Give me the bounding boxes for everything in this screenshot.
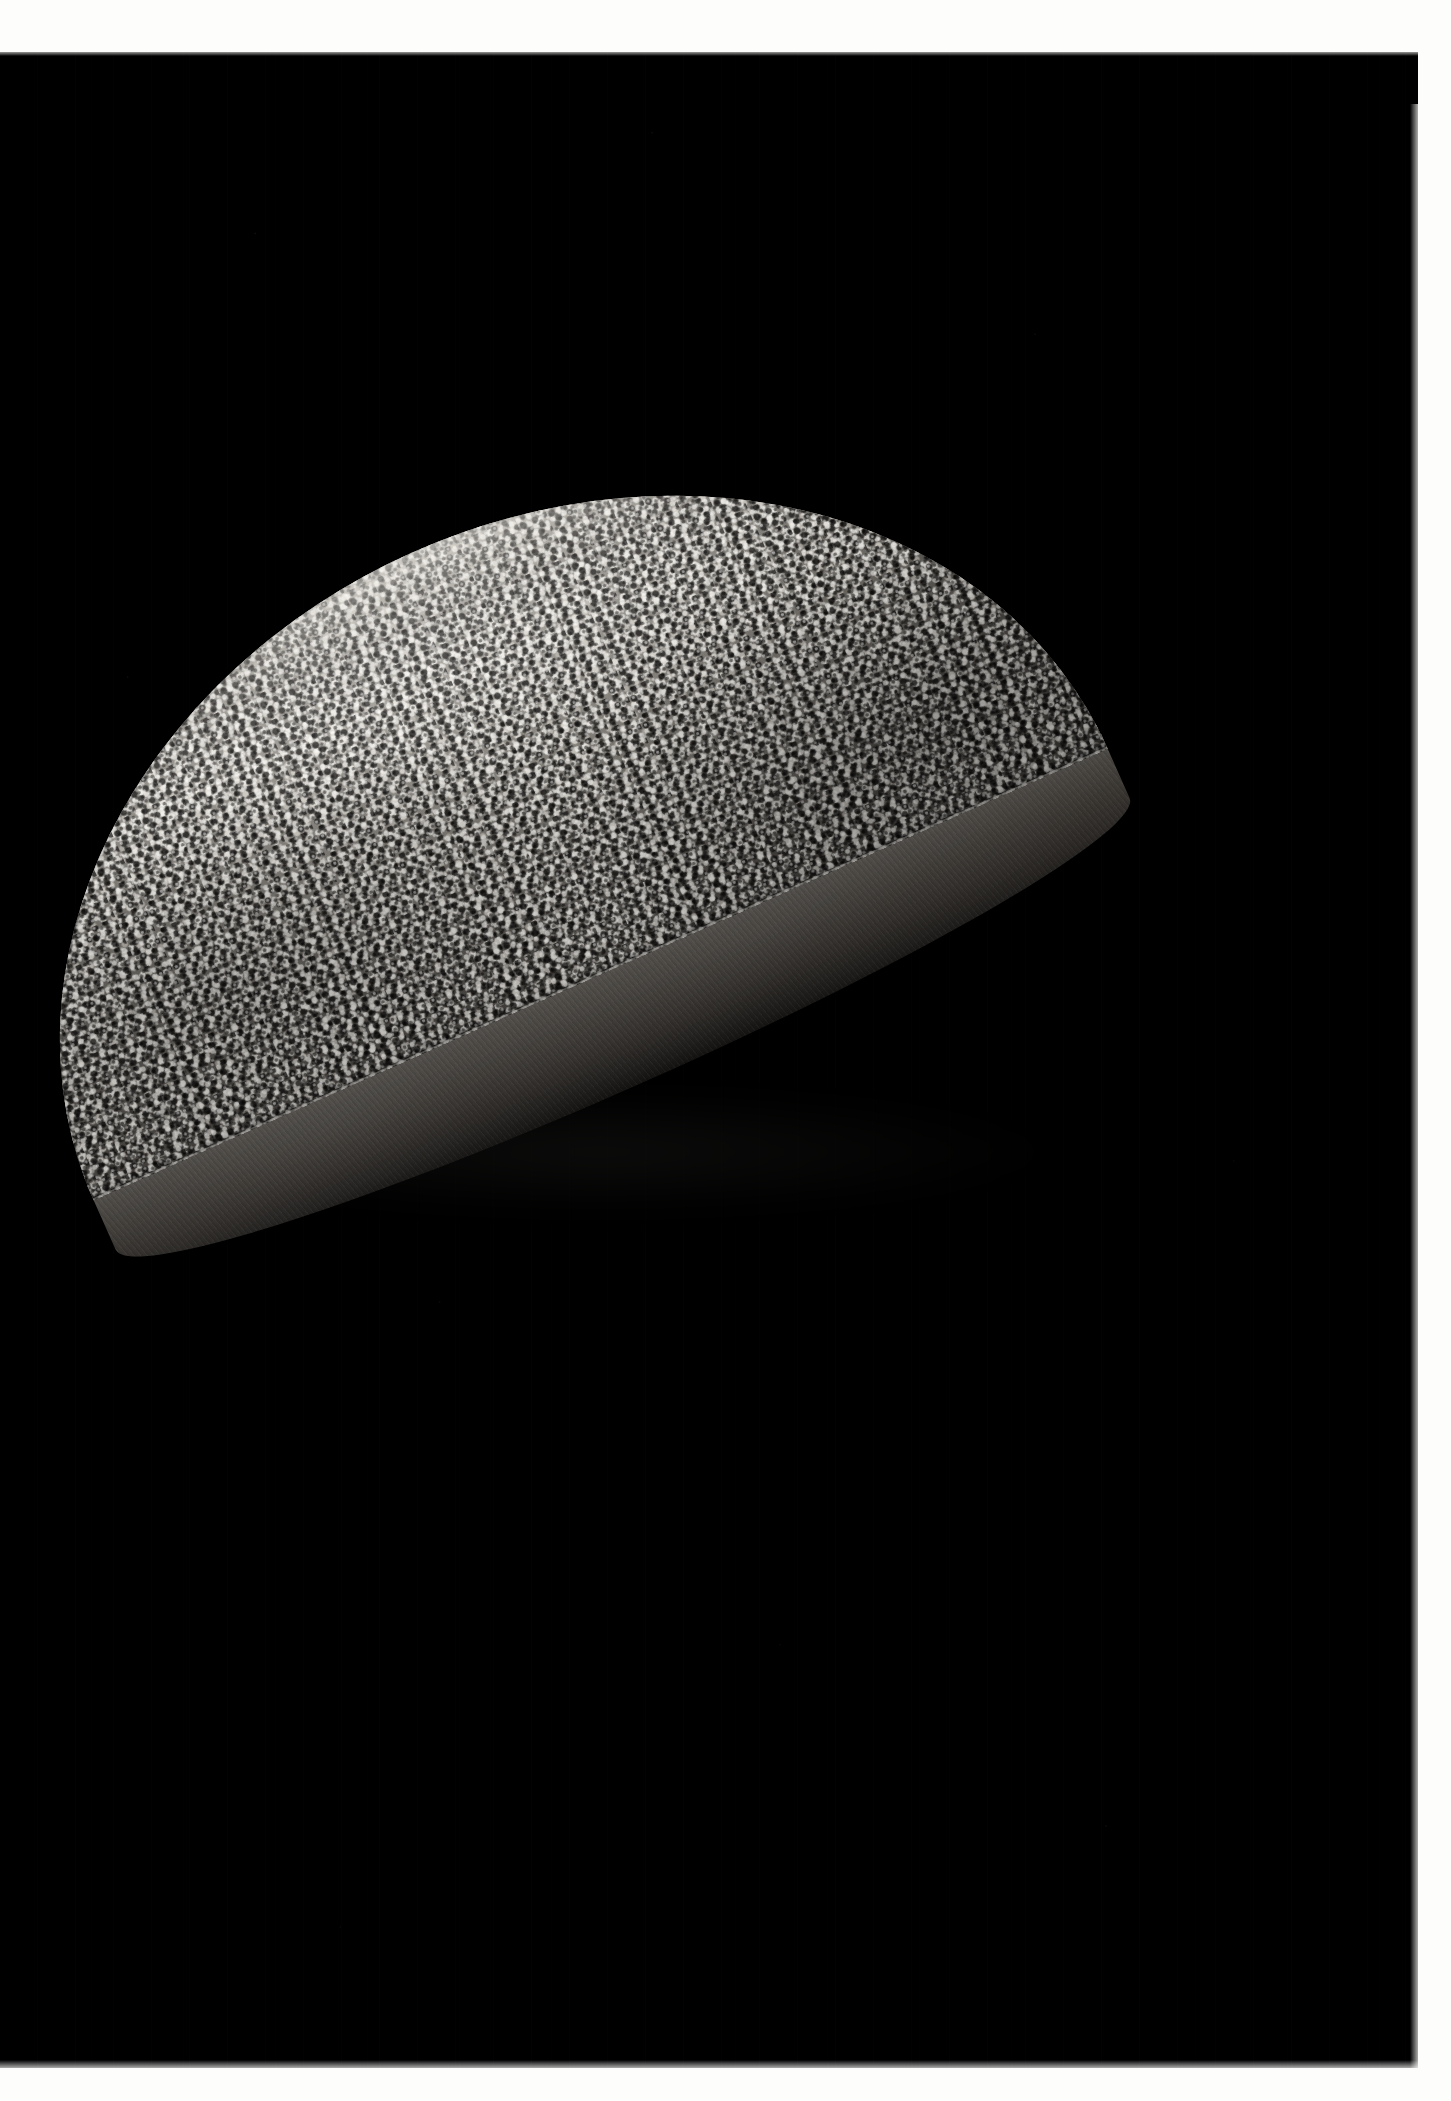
paper-border-top	[0, 0, 1451, 52]
photographic-field	[0, 52, 1418, 2068]
photo-page	[0, 0, 1451, 2101]
paper-border-bottom	[0, 2068, 1451, 2101]
bottom-edge-falloff	[0, 2060, 1418, 2070]
paper-border-right	[1418, 0, 1451, 2101]
half-disc-object	[0, 327, 1180, 1363]
top-edge-falloff	[0, 50, 1418, 56]
right-edge-falloff	[1410, 104, 1418, 2068]
